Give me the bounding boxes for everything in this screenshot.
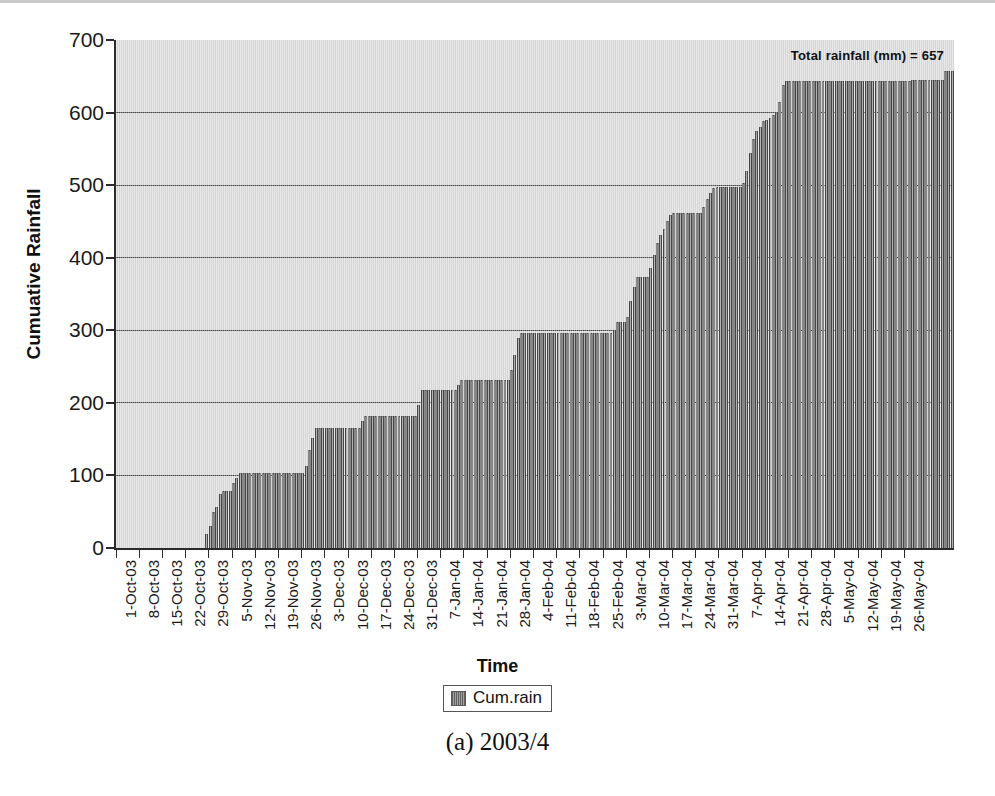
x-axis-tick-mark bbox=[324, 550, 325, 558]
x-axis-tick-mark bbox=[510, 550, 511, 558]
x-axis-tick-label: 15-Oct-03 bbox=[168, 560, 185, 627]
x-axis-tick-label: 4-Feb-04 bbox=[539, 560, 556, 621]
x-axis-tick-label: 19-May-04 bbox=[887, 560, 904, 632]
x-axis-tick-mark bbox=[834, 550, 835, 558]
x-axis-tick-label: 19-Nov-03 bbox=[284, 560, 301, 630]
x-axis-tick-mark bbox=[162, 550, 163, 558]
x-axis-tick-label: 12-May-04 bbox=[864, 560, 881, 632]
x-axis-tick-label: 10-Dec-03 bbox=[354, 560, 371, 630]
x-axis-tick-mark bbox=[649, 550, 650, 558]
x-axis-tick-mark bbox=[858, 550, 859, 558]
x-axis-tick-label: 7-Apr-04 bbox=[748, 560, 765, 618]
x-axis-tick-mark bbox=[185, 550, 186, 558]
x-axis-tick-label: 12-Nov-03 bbox=[261, 560, 278, 630]
x-axis-tick-mark bbox=[348, 550, 349, 558]
x-axis-tick-mark bbox=[278, 550, 279, 558]
legend: Cum.rain bbox=[0, 685, 995, 712]
x-axis-tick-mark bbox=[672, 550, 673, 558]
x-axis-tick-label: 22-Oct-03 bbox=[191, 560, 208, 627]
x-axis-tick-label: 5-May-04 bbox=[840, 560, 857, 623]
x-axis-tick-label: 1-Oct-03 bbox=[122, 560, 139, 618]
x-axis-tick-label: 3-Dec-03 bbox=[330, 560, 347, 622]
y-axis-tick-mark bbox=[106, 112, 114, 114]
x-axis-tick-mark bbox=[788, 550, 789, 558]
y-axis-tick-mark bbox=[106, 474, 114, 476]
y-axis-tick-label: 100 bbox=[58, 463, 104, 487]
bar-series-cum-rain bbox=[116, 40, 954, 548]
y-axis-tick-label: 400 bbox=[58, 246, 104, 270]
x-axis-tick-mark bbox=[487, 550, 488, 558]
x-axis-tick-label: 24-Dec-03 bbox=[400, 560, 417, 630]
total-rainfall-annotation: Total rainfall (mm) = 657 bbox=[791, 48, 944, 63]
legend-swatch-icon bbox=[451, 691, 466, 706]
x-axis-tick-mark bbox=[765, 550, 766, 558]
x-axis-tick-label: 28-Apr-04 bbox=[817, 560, 834, 627]
x-axis-tick-label: 24-Mar-04 bbox=[701, 560, 718, 629]
y-axis-tick-label: 200 bbox=[58, 391, 104, 415]
y-axis-tick-label: 300 bbox=[58, 318, 104, 342]
y-axis-tick-mark bbox=[106, 257, 114, 259]
x-axis-tick-mark bbox=[208, 550, 209, 558]
x-axis-tick-mark bbox=[463, 550, 464, 558]
y-axis-tick-mark bbox=[106, 547, 114, 549]
x-axis-tick-label: 11-Feb-04 bbox=[562, 560, 579, 628]
x-axis-tick-mark bbox=[742, 550, 743, 558]
x-axis-tick-label: 10-Mar-04 bbox=[655, 560, 672, 629]
x-axis-tick-mark bbox=[371, 550, 372, 558]
x-axis-tick-mark bbox=[881, 550, 882, 558]
x-axis-tick-mark bbox=[232, 550, 233, 558]
x-axis-tick-label: 3-Mar-04 bbox=[632, 560, 649, 621]
y-axis-tick-label: 600 bbox=[58, 101, 104, 125]
y-axis-tick-mark bbox=[106, 184, 114, 186]
x-axis-tick-label: 18-Feb-04 bbox=[585, 560, 602, 629]
x-axis-tick-label: 8-Oct-03 bbox=[145, 560, 162, 618]
x-axis-tick-mark bbox=[533, 550, 534, 558]
x-axis-tick-label: 28-Jan-04 bbox=[516, 560, 533, 628]
x-axis-tick-label: 14-Jan-04 bbox=[469, 560, 486, 628]
legend-entry-label: Cum.rain bbox=[473, 688, 542, 708]
x-axis-tick-label: 5-Nov-03 bbox=[238, 560, 255, 622]
figure-caption: (a) 2003/4 bbox=[0, 728, 995, 756]
y-axis-tick-mark bbox=[106, 329, 114, 331]
y-axis-tick-label: 500 bbox=[58, 173, 104, 197]
x-axis-tick-mark bbox=[904, 550, 905, 558]
x-axis-tick-mark bbox=[626, 550, 627, 558]
x-axis-tick-mark bbox=[255, 550, 256, 558]
y-axis-tick-mark bbox=[106, 402, 114, 404]
x-axis-tick-mark bbox=[394, 550, 395, 558]
x-axis-tick-label: 21-Jan-04 bbox=[493, 560, 510, 628]
x-axis-tick-label: 7-Jan-04 bbox=[446, 560, 463, 619]
x-axis-tick-mark bbox=[301, 550, 302, 558]
x-axis-tick-mark bbox=[116, 550, 117, 558]
y-axis-tick-label: 700 bbox=[58, 28, 104, 52]
x-axis-tick-mark bbox=[695, 550, 696, 558]
bar bbox=[951, 71, 954, 548]
x-axis-tick-label: 21-Apr-04 bbox=[794, 560, 811, 627]
legend-box: Cum.rain bbox=[443, 685, 552, 712]
x-axis-tick-label: 26-Nov-03 bbox=[307, 560, 324, 630]
scan-edge-artifact bbox=[0, 0, 995, 3]
x-axis-tick-label: 29-Oct-03 bbox=[214, 560, 231, 627]
y-axis-tick-mark bbox=[106, 39, 114, 41]
x-axis-tick-mark bbox=[603, 550, 604, 558]
x-axis-tick-label: 31-Dec-03 bbox=[423, 560, 440, 630]
y-axis-tick-label: 0 bbox=[58, 536, 104, 560]
x-axis-tick-mark bbox=[556, 550, 557, 558]
x-axis-tick-mark bbox=[811, 550, 812, 558]
x-axis-tick-mark bbox=[417, 550, 418, 558]
x-axis-tick-label: 17-Mar-04 bbox=[678, 560, 695, 629]
x-axis-tick-mark bbox=[139, 550, 140, 558]
x-axis-tick-label: 26-May-04 bbox=[910, 560, 927, 632]
x-axis-tick-label: 31-Mar-04 bbox=[724, 560, 741, 629]
x-axis-tick-mark bbox=[718, 550, 719, 558]
x-axis-tick-label: 17-Dec-03 bbox=[377, 560, 394, 630]
y-axis-title: Cumuative Rainfall bbox=[23, 188, 45, 359]
x-axis-tick-mark bbox=[440, 550, 441, 558]
x-axis-tick-label: 25-Feb-04 bbox=[609, 560, 626, 629]
x-axis-title: Time bbox=[0, 656, 995, 677]
figure-cumulative-rainfall: 0100200300400500600700 Cumuative Rainfal… bbox=[0, 0, 995, 796]
x-axis-tick-label: 14-Apr-04 bbox=[771, 560, 788, 627]
x-axis-tick-mark bbox=[579, 550, 580, 558]
plot-area: Total rainfall (mm) = 657 bbox=[114, 40, 954, 550]
